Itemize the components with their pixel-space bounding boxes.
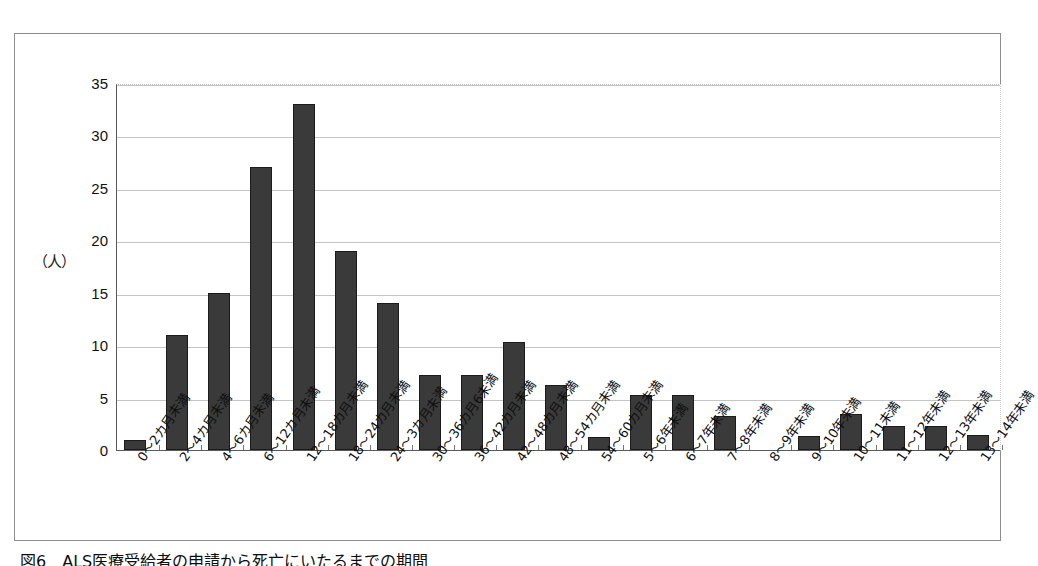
bar-slot: [795, 85, 837, 450]
y-tick-label: 0: [68, 442, 108, 459]
y-tick-label: 5: [68, 390, 108, 407]
figure-frame: （人） 05101520253035 0〜2カ月未満2〜4カ月未満4〜6カ月未満…: [14, 33, 1001, 541]
figure-caption: 図6 ALS医療受給者の申請から死亡にいたるまでの期間: [20, 548, 428, 566]
bar-slot: [837, 85, 879, 450]
y-tick-label: 35: [68, 75, 108, 92]
y-axis: 05101520253035: [15, 84, 116, 451]
y-tick-label: 10: [68, 337, 108, 354]
bar-slot: [753, 85, 795, 450]
bar-slot: [880, 85, 922, 450]
y-tick-label: 25: [68, 180, 108, 197]
bar-slot: [669, 85, 711, 450]
y-tick-label: 30: [68, 127, 108, 144]
bar-slot: [121, 85, 163, 450]
y-tick-label: 15: [68, 285, 108, 302]
bar-slot: [711, 85, 753, 450]
y-tick-label: 20: [68, 232, 108, 249]
